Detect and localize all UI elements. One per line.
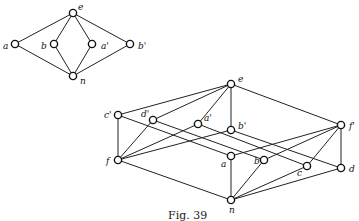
large-node-a-prime [194, 120, 201, 127]
large-edge [153, 120, 264, 160]
large-node-e [227, 80, 234, 87]
large-edge [231, 160, 264, 200]
large-node-f [114, 156, 121, 163]
large-node-label: c [297, 168, 302, 178]
small-node-e [69, 9, 76, 16]
small-edge [15, 13, 73, 44]
small-node-label: a' [101, 41, 109, 51]
large-node-label: c' [104, 110, 112, 120]
large-node-label: n [229, 205, 235, 215]
large-edge [231, 125, 341, 156]
large-node-label: e [238, 74, 243, 84]
small-node-b-prime [126, 40, 133, 47]
large-edge [231, 84, 341, 125]
large-edge [231, 130, 341, 168]
large-edge [118, 120, 153, 160]
small-node-a-prime [88, 40, 95, 47]
large-edge [118, 115, 231, 156]
large-node-b [260, 156, 267, 163]
large-edge [198, 124, 307, 166]
small-node-label: a [3, 41, 8, 51]
large-edge [231, 168, 341, 200]
small-edge [73, 13, 130, 44]
large-node-c-prime [114, 111, 121, 118]
large-lattice-diagram: ec'd'a'b'f'fabcdn [104, 74, 355, 215]
figure-caption: Fig. 39 [168, 209, 207, 221]
large-node-label: a [221, 159, 226, 169]
large-node-label: f' [348, 121, 355, 131]
large-edge [231, 166, 307, 200]
small-node-a [11, 40, 18, 47]
large-node-label: d' [141, 109, 149, 119]
small-node-label: e [78, 2, 83, 12]
small-node-label: n [80, 76, 86, 86]
lattice-diagram-figure: eaba'b'n ec'd'a'b'f'fabcdn Fig. 39 [0, 0, 359, 221]
large-node-d-prime [149, 116, 156, 123]
large-edge [307, 125, 341, 166]
large-node-label: a' [204, 113, 212, 123]
small-node-n [69, 72, 76, 79]
small-node-label: b' [138, 41, 146, 51]
small-node-label: b [41, 41, 47, 51]
large-node-label: f [105, 156, 111, 166]
small-node-b [50, 40, 57, 47]
large-node-label: d [349, 164, 355, 174]
large-node-a [227, 152, 234, 159]
large-edge [118, 160, 231, 200]
small-lattice-diagram: eaba'b'n [3, 2, 146, 86]
large-node-c [303, 162, 310, 169]
large-node-d [337, 164, 344, 171]
large-node-b-prime [227, 126, 234, 133]
large-node-label: b [254, 156, 260, 166]
large-node-n [227, 196, 234, 203]
large-node-label: b' [238, 121, 246, 131]
large-edge [198, 84, 231, 124]
large-node-f-prime [337, 121, 344, 128]
